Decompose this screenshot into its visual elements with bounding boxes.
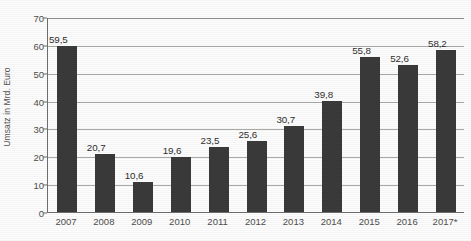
- bar-2008[interactable]: [95, 154, 115, 212]
- y-axis-title: Umsatz in Mrd. Euro: [0, 0, 14, 213]
- bar-slot: [95, 17, 115, 212]
- x-tick-label-2009: 2009: [131, 216, 152, 227]
- bar-2014[interactable]: [322, 101, 342, 212]
- bar-slot: [322, 17, 342, 212]
- bar-2009[interactable]: [133, 182, 153, 212]
- x-tick-label-2012: 2012: [245, 216, 266, 227]
- bar-2013[interactable]: [284, 126, 304, 212]
- bar-slot: [133, 17, 153, 212]
- x-tick-label-2017: 2017*: [433, 216, 458, 227]
- bar-2012[interactable]: [247, 141, 267, 212]
- bar-value-label: 39,8: [314, 89, 333, 100]
- bar-value-label: 19,6: [163, 145, 182, 156]
- bar-2011[interactable]: [209, 147, 229, 212]
- bar-value-label: 59,5: [49, 34, 68, 45]
- y-tick-label-0: 0: [20, 208, 44, 219]
- y-tick-label-60: 60: [20, 40, 44, 51]
- bar-chart: Umsatz in Mrd. Euro 010203040506070 59,5…: [0, 0, 471, 241]
- y-tick-label-50: 50: [20, 68, 44, 79]
- bar-value-label: 10,6: [125, 170, 144, 181]
- x-tick-label-2013: 2013: [283, 216, 304, 227]
- x-tick-label-2011: 2011: [207, 216, 227, 227]
- y-axis-title-text: Umsatz in Mrd. Euro: [2, 67, 12, 146]
- bar-slot: [57, 17, 77, 212]
- bar-slot: [247, 17, 267, 212]
- x-tick-label-2015: 2015: [359, 216, 380, 227]
- bar-2015[interactable]: [360, 57, 380, 212]
- y-tick-label-20: 20: [20, 152, 44, 163]
- bar-2007[interactable]: [57, 46, 77, 212]
- bar-value-label: 23,5: [201, 135, 220, 146]
- bar-2017[interactable]: [436, 50, 456, 212]
- x-tick-label-2008: 2008: [93, 216, 114, 227]
- bar-value-label: 55,8: [352, 45, 371, 56]
- bar-slot: [171, 17, 191, 212]
- bar-slot: [398, 17, 418, 212]
- bar-value-label: 30,7: [276, 114, 295, 125]
- bar-value-label: 20,7: [87, 142, 106, 153]
- x-tick-label-2016: 2016: [397, 216, 418, 227]
- y-tick-label-10: 10: [20, 180, 44, 191]
- bar-2016[interactable]: [398, 65, 418, 212]
- y-tick-label-70: 70: [20, 13, 44, 24]
- bar-slot: [209, 17, 229, 212]
- y-tick-label-40: 40: [20, 96, 44, 107]
- bar-2010[interactable]: [171, 157, 191, 212]
- bar-value-label: 52,6: [390, 53, 409, 64]
- plot-area: 59,520,710,619,623,525,630,739,855,852,6…: [47, 18, 464, 213]
- x-tick-label-2007: 2007: [55, 216, 76, 227]
- bar-value-label: 58,2: [428, 38, 447, 49]
- x-tick-label-2010: 2010: [169, 216, 190, 227]
- bar-value-label: 25,6: [239, 129, 258, 140]
- y-tick-label-30: 30: [20, 124, 44, 135]
- x-tick-label-2014: 2014: [321, 216, 342, 227]
